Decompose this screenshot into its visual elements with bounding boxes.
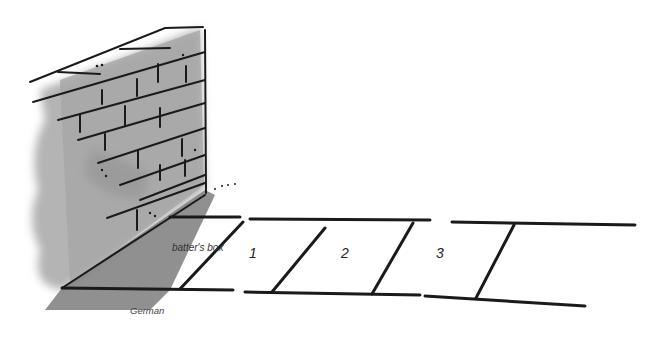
box-3-label: 3 <box>436 245 444 261</box>
box-1-label: 1 <box>249 245 257 261</box>
caption: German <box>130 305 164 316</box>
batters-box-label: batter's box <box>172 242 214 253</box>
box-2-label: 2 <box>341 245 349 261</box>
illustration-canvas <box>0 0 666 337</box>
